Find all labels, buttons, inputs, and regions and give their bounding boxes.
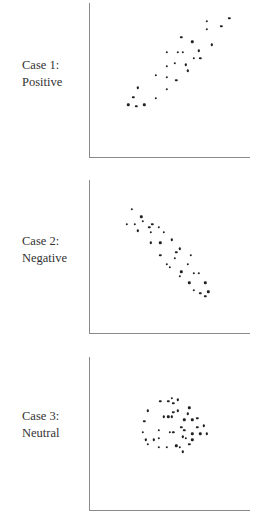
data-point xyxy=(191,419,193,421)
data-point xyxy=(183,429,185,431)
data-point xyxy=(206,20,208,22)
scatter-panel-negative: Case 2: Negative xyxy=(0,170,264,345)
data-point xyxy=(193,57,195,59)
data-point xyxy=(146,409,148,411)
data-point xyxy=(127,103,129,105)
data-point xyxy=(210,43,212,45)
case-label: Case 3: Neutral xyxy=(22,408,59,442)
data-point xyxy=(167,415,169,417)
data-point xyxy=(175,79,177,81)
data-point xyxy=(188,406,190,408)
case-type: Positive xyxy=(22,74,62,91)
data-point xyxy=(166,88,168,90)
data-point xyxy=(182,451,184,453)
data-point xyxy=(177,399,179,401)
case-number: Case 3: xyxy=(22,408,59,425)
scatter-panel-positive: Case 1: Positive xyxy=(0,0,264,170)
data-point xyxy=(193,272,195,274)
data-point xyxy=(142,220,144,222)
data-point xyxy=(166,65,168,67)
data-point xyxy=(158,429,160,431)
data-point xyxy=(167,400,169,402)
data-point xyxy=(188,443,190,445)
data-point xyxy=(153,438,155,440)
data-point xyxy=(199,57,201,59)
data-point xyxy=(146,443,148,445)
data-point xyxy=(182,51,184,53)
data-point xyxy=(166,76,168,78)
data-point xyxy=(199,432,201,434)
data-point xyxy=(159,400,161,402)
data-point xyxy=(166,446,168,448)
data-point xyxy=(143,103,145,105)
data-point xyxy=(158,226,160,228)
data-point xyxy=(202,425,204,427)
data-point xyxy=(169,431,171,433)
data-point xyxy=(177,51,179,53)
data-point xyxy=(178,275,180,277)
data-point xyxy=(191,40,193,42)
data-point xyxy=(199,292,201,294)
data-point xyxy=(162,231,164,233)
data-point xyxy=(172,411,174,413)
data-point xyxy=(134,223,136,225)
data-point xyxy=(148,226,150,228)
data-point xyxy=(182,435,184,437)
data-point xyxy=(196,417,198,419)
data-point xyxy=(140,216,142,218)
data-point xyxy=(178,446,180,448)
data-point xyxy=(175,445,177,447)
data-point xyxy=(137,87,139,89)
data-point xyxy=(154,97,156,99)
data-point xyxy=(158,446,160,448)
data-point xyxy=(174,62,176,64)
case-type: Neutral xyxy=(22,425,59,442)
data-point xyxy=(170,397,172,399)
data-point xyxy=(183,419,185,421)
data-point xyxy=(204,281,206,283)
data-point xyxy=(175,251,177,253)
data-point xyxy=(172,431,174,433)
data-point xyxy=(186,412,188,414)
data-point xyxy=(150,231,152,233)
data-point xyxy=(126,223,128,225)
data-point xyxy=(186,263,188,265)
data-point xyxy=(185,63,187,65)
data-point xyxy=(162,415,164,417)
data-point xyxy=(198,272,200,274)
data-point xyxy=(143,420,145,422)
data-point xyxy=(170,238,172,240)
data-point xyxy=(177,409,179,411)
data-point xyxy=(174,257,176,259)
data-point xyxy=(186,70,188,72)
data-point xyxy=(180,271,182,273)
data-point xyxy=(159,242,161,244)
data-point xyxy=(180,36,182,38)
case-number: Case 1: xyxy=(22,57,62,74)
data-point xyxy=(198,50,200,52)
data-point xyxy=(228,17,230,19)
data-point xyxy=(150,242,152,244)
data-point xyxy=(178,248,180,250)
case-label: Case 1: Positive xyxy=(22,57,62,91)
data-point xyxy=(159,254,161,256)
data-point xyxy=(188,281,190,283)
data-point xyxy=(145,438,147,440)
scatter-plot-negative xyxy=(89,180,250,334)
scatter-plot-neutral xyxy=(89,357,250,511)
data-point xyxy=(196,426,198,428)
data-point xyxy=(170,415,172,417)
data-point xyxy=(206,28,208,30)
data-point xyxy=(180,426,182,428)
data-point xyxy=(130,208,132,210)
data-point xyxy=(204,295,206,297)
data-point xyxy=(166,263,168,265)
data-point xyxy=(220,25,222,27)
data-point xyxy=(151,223,153,225)
data-point xyxy=(158,437,160,439)
data-point xyxy=(191,432,193,434)
data-point xyxy=(193,289,195,291)
scatter-plot-positive xyxy=(89,3,250,158)
data-point xyxy=(135,105,137,107)
data-point xyxy=(166,51,168,53)
